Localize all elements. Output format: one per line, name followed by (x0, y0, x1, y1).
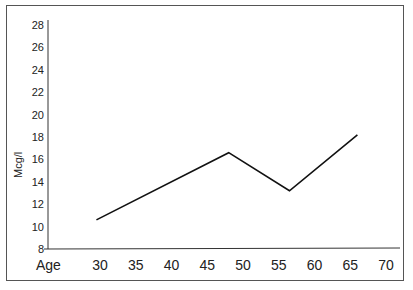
y-tick-label: 24 (32, 64, 44, 76)
x-tick-labels: 303540455055606570 (92, 257, 394, 273)
y-tick-label: 12 (32, 198, 44, 210)
x-tick-label: 50 (235, 257, 251, 273)
x-tick-label: 65 (342, 257, 358, 273)
x-tick-label: 45 (199, 257, 215, 273)
y-tick-label: 26 (32, 41, 44, 53)
y-tick-label: 28 (32, 19, 44, 31)
x-tick-label: 40 (164, 257, 180, 273)
x-tick-label: 30 (92, 257, 108, 273)
y-tick-labels: 810121416182022242628 (32, 19, 44, 255)
x-axis-title: Age (36, 257, 61, 273)
x-tick-label: 35 (128, 257, 144, 273)
x-tick-label: 70 (378, 257, 394, 273)
x-axis (44, 248, 400, 249)
line-chart: 810121416182022242628 303540455055606570… (0, 0, 413, 290)
y-tick-label: 16 (32, 153, 44, 165)
x-tick-label: 60 (307, 257, 323, 273)
y-axis-title: Mcg/l (12, 152, 24, 178)
y-tick-label: 14 (32, 176, 44, 188)
data-line (96, 135, 357, 220)
x-tick-label: 55 (271, 257, 287, 273)
y-tick-label: 20 (32, 109, 44, 121)
y-tick-label: 18 (32, 131, 44, 143)
y-tick-label: 8 (38, 243, 44, 255)
y-tick-label: 10 (32, 221, 44, 233)
y-tick-label: 22 (32, 86, 44, 98)
